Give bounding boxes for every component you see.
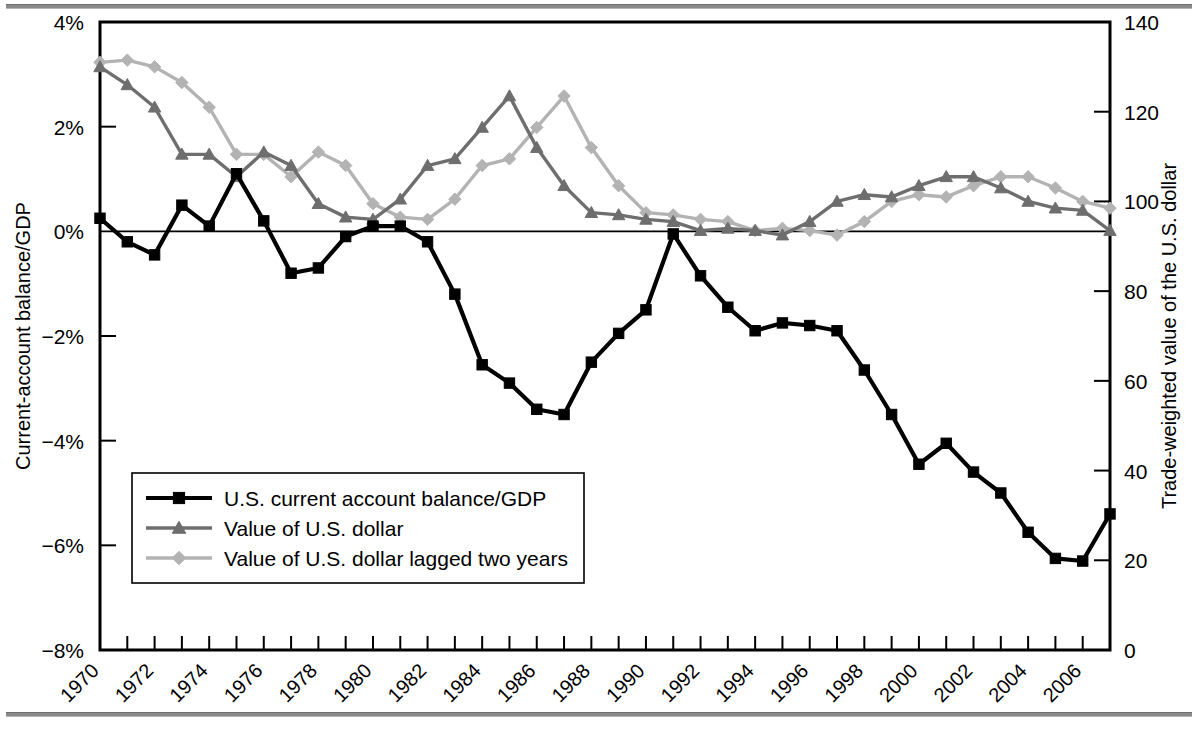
right-axis-tick-label: 100 bbox=[1124, 190, 1159, 213]
x-axis-tick-label: 1994 bbox=[711, 659, 758, 706]
data-point-marker bbox=[313, 263, 323, 273]
legend-marker-square bbox=[173, 492, 184, 503]
data-point-marker bbox=[805, 320, 815, 330]
x-axis-tick-label: 1990 bbox=[602, 659, 649, 706]
data-point-marker bbox=[914, 459, 924, 469]
data-point-marker bbox=[832, 326, 842, 336]
series-2 bbox=[94, 61, 1116, 240]
series-line bbox=[100, 60, 1110, 235]
data-point-marker bbox=[940, 191, 952, 203]
data-point-marker bbox=[1104, 202, 1116, 214]
x-axis-tick-label: 1986 bbox=[493, 659, 540, 706]
left-axis-tick-label: 2% bbox=[54, 116, 84, 139]
data-point-marker bbox=[777, 318, 787, 328]
data-point-marker bbox=[286, 268, 296, 278]
left-axis-tick-label: −6% bbox=[41, 534, 84, 557]
data-point-marker bbox=[122, 237, 132, 247]
x-axis-tick-label: 2004 bbox=[984, 659, 1031, 706]
chart-canvas: 4%2%0%−2%−4%−6%−8%Current-account balanc… bbox=[0, 0, 1198, 729]
data-point-marker bbox=[259, 216, 269, 226]
data-point-marker bbox=[95, 213, 105, 223]
left-axis-title: Current-account balance/GDP bbox=[12, 202, 34, 470]
data-point-marker bbox=[177, 200, 187, 210]
bottom-axis: 1970197219741976197819801982198419861988… bbox=[56, 636, 1110, 706]
data-point-marker bbox=[532, 404, 542, 414]
x-axis-tick-label: 1998 bbox=[820, 659, 867, 706]
data-point-marker bbox=[559, 409, 569, 419]
x-axis-tick-label: 1984 bbox=[438, 659, 485, 706]
figure-container: 4%2%0%−2%−4%−6%−8%Current-account balanc… bbox=[0, 0, 1198, 729]
left-axis-tick-label: 4% bbox=[54, 11, 84, 34]
data-point-marker bbox=[1022, 171, 1034, 183]
data-point-marker bbox=[503, 90, 515, 101]
legend: U.S. current account balance/GDPValue of… bbox=[132, 473, 584, 583]
x-axis-tick-label: 2006 bbox=[1039, 659, 1086, 706]
data-point-marker bbox=[750, 326, 760, 336]
data-point-marker bbox=[859, 365, 869, 375]
right-axis-tick-label: 20 bbox=[1124, 549, 1147, 572]
x-axis-tick-label: 2002 bbox=[929, 659, 976, 706]
x-axis-tick-label: 1992 bbox=[656, 659, 703, 706]
left-axis-tick-label: −8% bbox=[41, 639, 84, 662]
data-point-marker bbox=[613, 328, 623, 338]
left-axis-tick-label: −4% bbox=[41, 430, 84, 453]
right-axis-tick-label: 140 bbox=[1124, 11, 1159, 34]
data-point-marker bbox=[996, 488, 1006, 498]
data-point-marker bbox=[641, 305, 651, 315]
data-point-marker bbox=[668, 229, 678, 239]
data-point-marker bbox=[723, 302, 733, 312]
data-point-marker bbox=[1023, 527, 1033, 537]
data-point-marker bbox=[340, 231, 350, 241]
data-point-marker bbox=[368, 221, 378, 231]
data-point-marker bbox=[968, 467, 978, 477]
x-axis-tick-label: 1982 bbox=[383, 659, 430, 706]
right-axis-tick-label: 40 bbox=[1124, 460, 1147, 483]
right-axis-tick-label: 80 bbox=[1124, 280, 1147, 303]
x-axis-tick-label: 1970 bbox=[56, 659, 103, 706]
x-axis-tick-label: 1996 bbox=[766, 659, 813, 706]
x-axis-tick-label: 1988 bbox=[547, 659, 594, 706]
data-point-marker bbox=[422, 237, 432, 247]
right-axis-tick-label: 0 bbox=[1124, 639, 1136, 662]
data-point-marker bbox=[204, 221, 214, 231]
data-point-marker bbox=[941, 438, 951, 448]
x-axis-tick-label: 1972 bbox=[110, 659, 157, 706]
data-point-marker bbox=[450, 289, 460, 299]
right-axis: 140120100806040200Trade-weighted value o… bbox=[1094, 11, 1180, 662]
legend-label: U.S. current account balance/GDP bbox=[224, 487, 546, 510]
data-point-marker bbox=[695, 271, 705, 281]
data-point-marker bbox=[586, 357, 596, 367]
x-axis-tick-label: 2000 bbox=[875, 659, 922, 706]
x-axis-tick-label: 1974 bbox=[165, 659, 212, 706]
data-point-marker bbox=[1050, 553, 1060, 563]
right-axis-tick-label: 120 bbox=[1124, 101, 1159, 124]
data-point-marker bbox=[886, 409, 896, 419]
x-axis-tick-label: 1978 bbox=[274, 659, 321, 706]
data-point-marker bbox=[1105, 509, 1115, 519]
data-point-marker bbox=[531, 141, 543, 152]
data-point-marker bbox=[258, 146, 270, 157]
data-point-marker bbox=[149, 250, 159, 260]
data-point-marker bbox=[1078, 556, 1088, 566]
legend-label: Value of U.S. dollar lagged two years bbox=[224, 547, 568, 570]
legend-label: Value of U.S. dollar bbox=[224, 517, 403, 540]
data-point-marker bbox=[1049, 182, 1061, 194]
data-point-marker bbox=[504, 378, 514, 388]
left-axis-tick-label: −2% bbox=[41, 325, 84, 348]
data-point-marker bbox=[121, 54, 133, 66]
data-point-marker bbox=[395, 221, 405, 231]
left-axis-tick-label: 0% bbox=[54, 220, 84, 243]
data-point-marker bbox=[231, 169, 241, 179]
series-line bbox=[100, 67, 1110, 235]
right-axis-tick-label: 60 bbox=[1124, 370, 1147, 393]
x-axis-tick-label: 1980 bbox=[329, 659, 376, 706]
data-point-marker bbox=[477, 360, 487, 370]
right-axis-title: Trade-weighted value of the U.S. dollar bbox=[1158, 163, 1180, 509]
x-axis-tick-label: 1976 bbox=[220, 659, 267, 706]
